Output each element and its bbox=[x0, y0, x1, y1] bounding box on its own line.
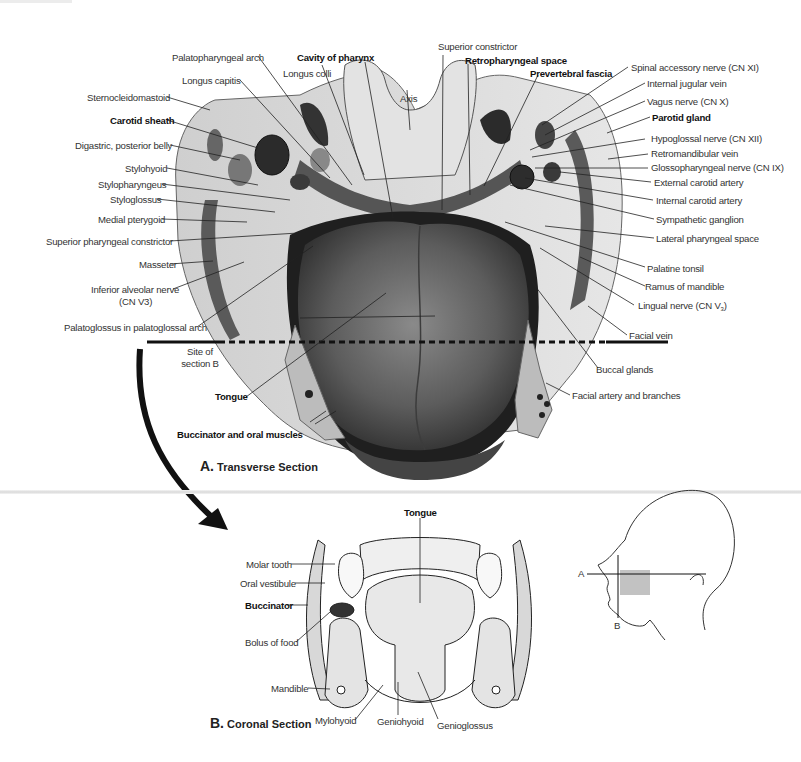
label-mylohyoid: Mylohyoid bbox=[315, 715, 356, 726]
label-glossopharyngeal-nerve: Glossopharyngeal nerve (CN IX) bbox=[651, 162, 784, 173]
inset-plane-b-label: B bbox=[614, 620, 620, 631]
label-masseter: Masseter bbox=[139, 259, 177, 270]
label-spinal-accessory-nerve: Spinal accessory nerve (CN XI) bbox=[631, 62, 759, 73]
label-lateral-pharyngeal-space: Lateral pharyngeal space bbox=[656, 233, 759, 244]
label-geniohyoid: Geniohyoid bbox=[377, 716, 424, 727]
label-superior-constrictor: Superior constrictor bbox=[438, 41, 517, 52]
label-axis: Axis bbox=[400, 93, 417, 104]
label-retromandibular-vein: Retromandibular vein bbox=[651, 148, 738, 159]
label-bolus-of-food: Bolus of food bbox=[245, 637, 298, 648]
inset-plane-a-label: A bbox=[578, 568, 584, 579]
label-cavity-of-pharynx: Cavity of pharynx bbox=[297, 52, 374, 63]
label-vagus-nerve: Vagus nerve (CN X) bbox=[647, 96, 729, 107]
label-inferior-alveolar-nerve: Inferior alveolar nerve bbox=[91, 284, 179, 295]
label-internal-carotid-artery: Internal carotid artery bbox=[656, 195, 742, 206]
caption-b-text: Coronal Section bbox=[227, 718, 311, 730]
label-mandible: Mandible bbox=[271, 683, 308, 694]
label-digastric-posterior-belly: Digastric, posterior belly bbox=[75, 140, 172, 151]
label-superior-pharyngeal-constrictor: Superior pharyngeal constrictor bbox=[46, 236, 173, 247]
label-oral-vestibule: Oral vestibule bbox=[240, 578, 296, 589]
label-palatoglossus: Palatoglossus in palatoglossal arch bbox=[64, 322, 207, 333]
label-medial-pterygoid: Medial pterygoid bbox=[98, 214, 165, 225]
label-stylohyoid: Stylohyoid bbox=[125, 163, 167, 174]
label-buccinator-oral-muscles: Buccinator and oral muscles bbox=[177, 429, 303, 440]
caption-section-a: A. Transverse Section bbox=[200, 458, 318, 474]
caption-a-letter: A. bbox=[200, 458, 214, 474]
label-genioglossus: Genioglossus bbox=[437, 720, 493, 731]
label-buccinator: Buccinator bbox=[245, 600, 293, 611]
label-lingual-nerve: Lingual nerve (CN V3) bbox=[638, 300, 727, 315]
label-external-carotid-artery: External carotid artery bbox=[654, 177, 743, 188]
label-buccal-glands: Buccal glands bbox=[596, 364, 653, 375]
label-site-of: Site of bbox=[172, 346, 228, 357]
label-sternocleidomastoid: Sternocleidomastoid bbox=[87, 92, 170, 103]
label-longus-capitis: Longus capitis bbox=[182, 75, 241, 86]
label-styloglossus: Styloglossus bbox=[110, 194, 161, 205]
caption-b-letter: B. bbox=[210, 715, 224, 731]
caption-section-b: B. Coronal Section bbox=[210, 715, 311, 731]
label-hypoglossal-nerve: Hypoglossal nerve (CN XII) bbox=[651, 133, 762, 144]
label-facial-artery-branches: Facial artery and branches bbox=[572, 390, 680, 401]
label-stylopharyngeus: Stylopharyngeus bbox=[98, 179, 166, 190]
label-prevertebral-fascia: Prevertebral fascia bbox=[530, 68, 612, 79]
label-retropharyngeal-space: Retropharyngeal space bbox=[465, 55, 567, 66]
label-ramus-of-mandible: Ramus of mandible bbox=[645, 281, 724, 292]
label-longus-colli: Longus colli bbox=[283, 68, 331, 79]
label-facial-vein: Facial vein bbox=[629, 330, 673, 341]
label-parotid-gland: Parotid gland bbox=[652, 112, 711, 123]
label-tongue-a: Tongue bbox=[215, 391, 248, 402]
label-molar-tooth: Molar tooth bbox=[246, 559, 292, 570]
label-carotid-sheath: Carotid sheath bbox=[110, 115, 174, 126]
label-section-b: section B bbox=[172, 358, 228, 369]
label-tongue-b: Tongue bbox=[404, 507, 437, 518]
caption-a-text: Transverse Section bbox=[217, 461, 318, 473]
label-internal-jugular-vein: Internal jugular vein bbox=[647, 78, 727, 89]
label-inferior-alveolar-nerve-cn: (CN V3) bbox=[119, 296, 152, 307]
label-palatopharyngeal-arch: Palatopharyngeal arch bbox=[172, 52, 264, 63]
label-palatine-tonsil: Palatine tonsil bbox=[647, 263, 704, 274]
label-sympathetic-ganglion: Sympathetic ganglion bbox=[656, 214, 744, 225]
